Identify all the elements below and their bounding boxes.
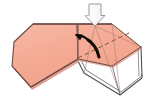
origami-diagram-svg xyxy=(0,0,151,110)
origami-diagram: Origami folding step diagram A salmon-pi… xyxy=(0,0,151,110)
